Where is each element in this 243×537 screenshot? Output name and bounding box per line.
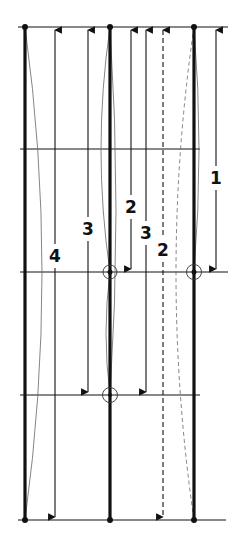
level-lines [18, 27, 228, 520]
label-1: 1 [210, 168, 222, 188]
node-dot [107, 517, 113, 523]
label-4: 4 [49, 246, 61, 266]
left-post-buckling-curve [25, 27, 42, 520]
label-gaps [48, 166, 223, 268]
node-dot [107, 24, 113, 30]
node-dot [108, 393, 112, 397]
right-post-dashed-buckling-curve [176, 27, 194, 520]
braced-node-circles [103, 265, 202, 403]
node-dot [22, 517, 28, 523]
label-3-left: 3 [82, 219, 94, 239]
label-3-right: 3 [140, 223, 152, 243]
node-dot [22, 24, 28, 30]
node-dot [191, 517, 197, 523]
node-dot [191, 24, 197, 30]
node-dot [108, 270, 113, 275]
label-2-solid: 2 [125, 197, 137, 217]
label-2-dashed: 2 [157, 240, 169, 260]
buckling-length-diagram: 4 3 2 3 2 1 [0, 0, 243, 537]
node-dot [192, 270, 197, 275]
dimension-arrows [55, 30, 216, 517]
